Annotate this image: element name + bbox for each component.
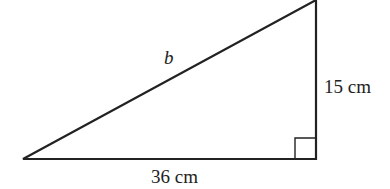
triangle-shape bbox=[23, 0, 316, 159]
horizontal-leg-label: 36 cm bbox=[151, 166, 198, 187]
right-angle-marker bbox=[295, 138, 316, 159]
triangle-figure: b 15 cm 36 cm bbox=[0, 0, 390, 189]
vertical-leg-label: 15 cm bbox=[324, 76, 371, 97]
right-triangle-diagram: b 15 cm 36 cm bbox=[0, 0, 390, 189]
hypotenuse-label: b bbox=[164, 47, 174, 68]
